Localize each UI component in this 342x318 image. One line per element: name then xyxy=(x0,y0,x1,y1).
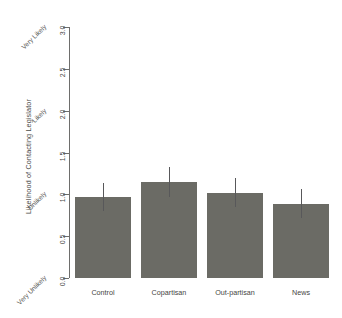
bar-chart: Likelihood of Contacting Legislator 0.00… xyxy=(0,0,342,318)
error-bar xyxy=(103,183,104,211)
error-bar xyxy=(169,167,170,197)
y-axis-tick-label: 0.0 xyxy=(59,277,66,317)
error-bar xyxy=(301,189,302,217)
y-axis-tick-label: 0.5 xyxy=(59,235,66,275)
y-axis-title: Likelihood of Contacting Legislator xyxy=(24,67,33,247)
y-axis-tick-label: 1.5 xyxy=(59,151,66,191)
x-axis-label: Out-partisan xyxy=(202,288,268,297)
y-axis-anchor-label: Very Unlikely xyxy=(0,274,47,318)
y-axis-tick-label: 2.5 xyxy=(59,67,66,107)
x-axis-label: Copartisan xyxy=(136,288,202,297)
error-bar xyxy=(235,178,236,206)
y-axis-tick-label: 2.0 xyxy=(59,109,66,149)
y-axis-tick-label: 1.0 xyxy=(59,193,66,233)
x-axis-label: Control xyxy=(70,288,136,297)
y-axis-anchor-label: Very Likely xyxy=(0,23,47,70)
plot-area xyxy=(70,27,334,278)
x-axis-label: News xyxy=(268,288,334,297)
y-axis-tick-label: 3.0 xyxy=(59,26,66,66)
